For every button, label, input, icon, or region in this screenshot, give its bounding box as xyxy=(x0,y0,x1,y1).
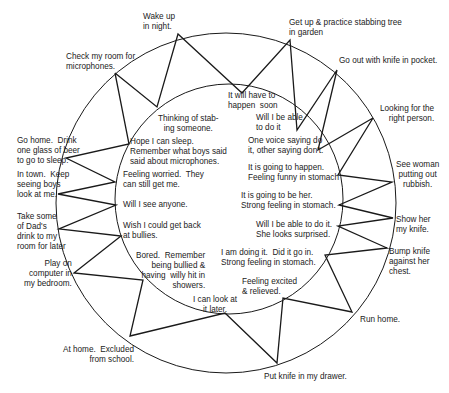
label-at-home: At home. Excluded from school. xyxy=(63,345,134,365)
label-see-woman: See woman putting out rubbish. xyxy=(396,160,439,190)
label-take-some: Take some of Dad's drink to my room for … xyxy=(17,212,66,252)
label-see-anyone: Will I see anyone. xyxy=(123,200,188,210)
label-play-on: Play on computer in my bedroom. xyxy=(24,259,72,289)
label-able-surprised: Will I be able to do it. She looks surpr… xyxy=(256,220,332,240)
label-bored: Bored. Remember being bullied & having w… xyxy=(136,251,205,291)
label-get-up: Get up & practice stabbing tree in garde… xyxy=(289,18,402,38)
label-looking: Looking for the right person. xyxy=(380,104,434,124)
label-worried: Feeling worried. They can still get me. xyxy=(123,170,204,190)
label-will-i-be-able: Will I be able to do it xyxy=(256,113,303,133)
label-going-to-be-her: It is going to be her. Strong feeling in… xyxy=(241,191,336,211)
label-go-out: Go out with knife in pocket. xyxy=(339,56,437,66)
label-bump-knife: Bump knife against her chest. xyxy=(389,247,430,277)
label-going-to-happen: It is going to happen. Feeling funny in … xyxy=(248,163,339,183)
label-check-room: Check my room for microphones. xyxy=(66,52,135,72)
label-doing-it: I am doing it. Did it go in. Strong feel… xyxy=(221,248,316,268)
label-in-town: In town. Keep seeing boys look at me. xyxy=(17,170,69,200)
label-will-have: It will have to happen soon xyxy=(228,91,278,111)
label-excited: Feeling excited & relieved. xyxy=(242,277,297,297)
label-go-home: Go home. Drink one glass of beer to go t… xyxy=(17,136,80,166)
label-wake-up: Wake up in night. xyxy=(143,12,175,32)
label-run-home: Run home. xyxy=(360,315,400,325)
label-thinking: Thinking of stab- ing someone. xyxy=(158,114,219,134)
label-get-back: Wish I could get back at bullies. xyxy=(123,221,201,241)
label-show-her: Show her my knife. xyxy=(396,215,431,235)
label-one-voice: One voice saying do it, other saying don… xyxy=(248,136,323,156)
label-look-later: I can look at it later. xyxy=(193,295,237,315)
label-put-knife: Put knife in my drawer. xyxy=(264,372,347,382)
label-hope-sleep: Hope I can sleep. Remember what boys sai… xyxy=(130,137,227,167)
